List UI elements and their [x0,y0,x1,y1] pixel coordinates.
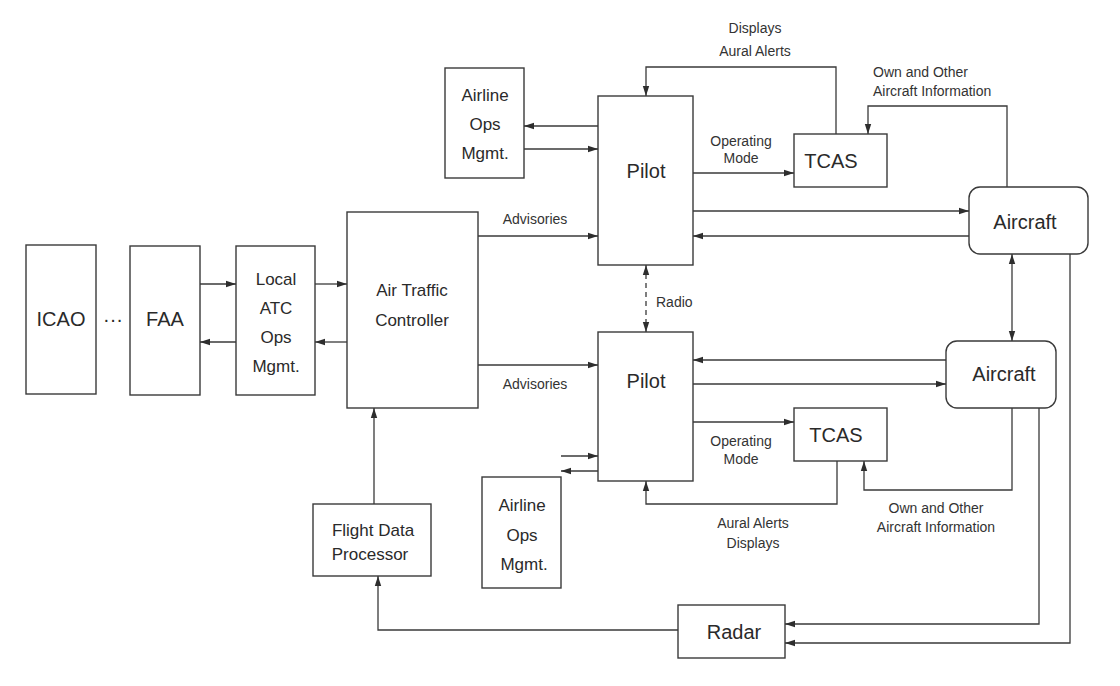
node-faa-label: FAA [146,308,184,330]
label-advisories-bottom: Advisories [503,376,568,392]
node-radar-label: Radar [707,621,762,643]
node-fdp-line-2: Processor [332,545,409,564]
node-airline-ops-bottom-line-3: Mgmt. [500,555,547,574]
node-airline-ops-top-line-1: Airline [461,86,508,105]
node-fdp-line-1: Flight Data [332,521,415,540]
node-airline-ops-top-line-2: Ops [469,115,500,134]
ellipsis-separator: ··· [103,308,123,330]
node-airline-ops-bottom: Airline Ops Mgmt. [482,477,561,588]
node-pilot-top: Pilot [598,96,693,265]
node-flight-data-processor: Flight Data Processor [313,504,431,576]
label-operating-mode-top-1: Operating [710,133,771,149]
label-displays-top: Displays [729,20,782,36]
label-radio: Radio [656,294,693,310]
node-atc-line-1: Air Traffic [376,281,448,300]
node-local-atc-line-2: ATC [260,299,293,318]
node-pilot-top-label: Pilot [627,160,666,182]
label-aural-alerts-bottom: Aural Alerts [717,515,789,531]
label-advisories-top: Advisories [503,211,568,227]
node-tcas-bottom-label: TCAS [809,424,862,446]
node-airline-ops-bottom-line-1: Airline [498,496,545,515]
node-pilot-bottom-label: Pilot [627,370,666,392]
node-local-atc-line-4: Mgmt. [252,357,299,376]
node-airline-ops-bottom-line-2: Ops [506,526,537,545]
node-tcas-bottom: TCAS [794,408,887,461]
label-operating-mode-top-2: Mode [723,150,758,166]
node-aircraft-top: Aircraft [969,187,1088,254]
node-air-traffic-controller: Air Traffic Controller [347,212,478,408]
node-faa: FAA [130,246,200,395]
label-own-other-top-1: Own and Other [873,64,968,80]
node-aircraft-bottom: Aircraft [946,341,1056,408]
label-own-other-bottom-2: Aircraft Information [877,519,995,535]
node-pilot-bottom: Pilot [598,332,693,481]
label-displays-bottom: Displays [727,535,780,551]
node-icao: ICAO [26,245,96,394]
node-tcas-top-label: TCAS [804,150,857,172]
label-aural-alerts-top: Aural Alerts [719,43,791,59]
label-own-other-top-2: Aircraft Information [873,83,991,99]
node-aircraft-top-label: Aircraft [993,211,1057,233]
node-tcas-top: TCAS [794,134,887,187]
label-operating-mode-bottom-1: Operating [710,433,771,449]
node-local-atc-line-3: Ops [260,328,291,347]
label-own-other-bottom-1: Own and Other [889,500,984,516]
node-icao-label: ICAO [37,308,86,330]
edge-aircraft-top-to-tcas-top [868,106,1007,187]
node-airline-ops-top-line-3: Mgmt. [461,144,508,163]
label-operating-mode-bottom-2: Mode [723,451,758,467]
node-airline-ops-top: Airline Ops Mgmt. [445,68,524,178]
tcas-control-structure-diagram: ICAO ··· FAA Local ATC Ops Mgmt. Air Tra… [0,0,1120,686]
node-local-atc-ops-mgmt: Local ATC Ops Mgmt. [236,246,315,395]
node-atc-line-2: Controller [375,311,449,330]
node-radar: Radar [678,605,785,658]
node-local-atc-line-1: Local [256,270,297,289]
node-aircraft-bottom-label: Aircraft [972,363,1036,385]
